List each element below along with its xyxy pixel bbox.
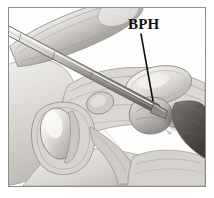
bph-label: BPH xyxy=(128,17,159,32)
figure-root: BPH xyxy=(0,0,214,198)
illustration-frame xyxy=(8,7,206,187)
anatomy-illustration xyxy=(9,8,205,186)
